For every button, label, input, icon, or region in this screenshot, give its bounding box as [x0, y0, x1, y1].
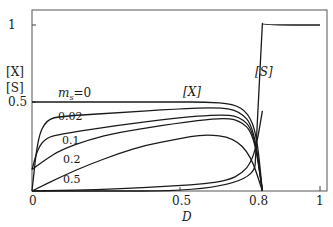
- x-axis-label: D: [182, 211, 192, 223]
- x-tick-label-05: 0.5: [172, 195, 191, 207]
- x-tick-label-08: 0.8: [249, 195, 268, 207]
- x-tick-label-0: 0: [29, 195, 37, 207]
- y-axis-label-s: [S]: [6, 82, 24, 94]
- curve-label-02: 0.2: [63, 154, 81, 166]
- y-tick-label-05: 0.5: [8, 96, 27, 108]
- y-tick-label-1: 1: [8, 19, 16, 31]
- curve-label-05: 0.5: [63, 174, 81, 186]
- curve-label-ms0-m: m: [58, 86, 69, 100]
- y-axis-label-x: [X]: [6, 66, 24, 78]
- chart-canvas: [0, 0, 333, 227]
- curve-label-002: 0.02: [58, 111, 83, 123]
- curve-label-01: 0.1: [62, 135, 80, 147]
- x-tick-label-1: 1: [316, 195, 324, 207]
- curve-label-ms0: ms=0: [58, 87, 91, 104]
- curve-label-x: [X]: [183, 86, 201, 98]
- curve-label-s: [S]: [255, 66, 273, 78]
- curve-label-ms0-suffix: =0: [74, 86, 92, 100]
